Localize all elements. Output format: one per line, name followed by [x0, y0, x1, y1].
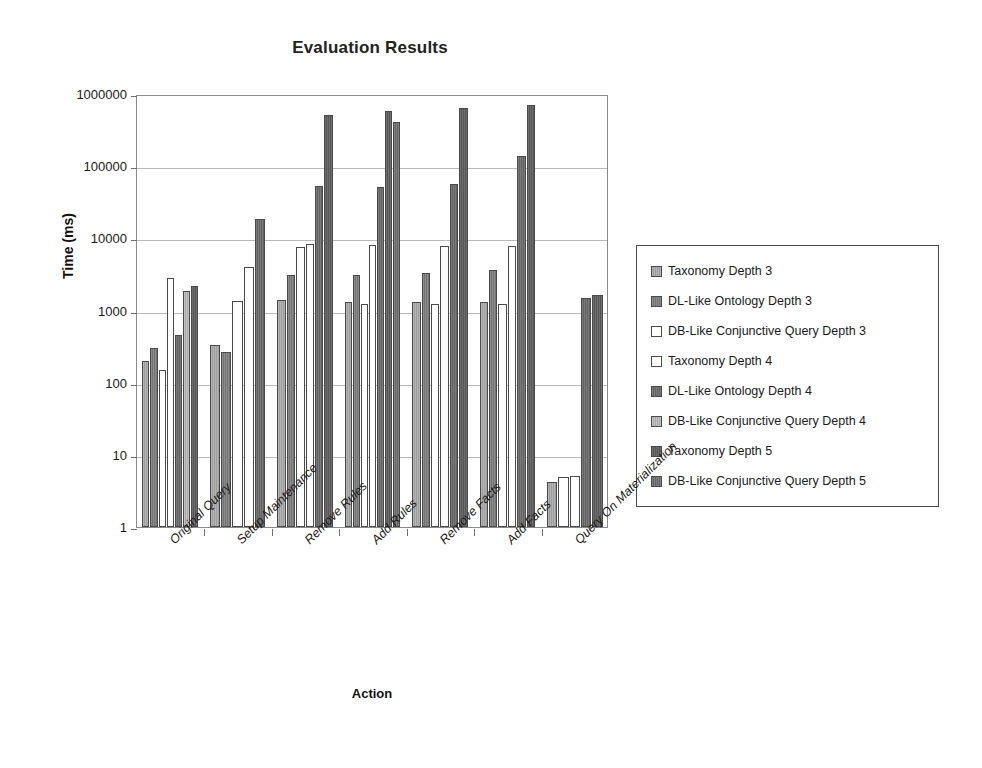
bar	[440, 246, 448, 527]
legend-swatch-icon	[651, 476, 662, 487]
legend-label: DB-Like Conjunctive Query Depth 4	[668, 415, 866, 428]
bar	[377, 187, 384, 527]
bar	[244, 267, 254, 527]
y-tick-mark	[131, 529, 137, 530]
legend-swatch-icon	[651, 386, 662, 397]
bar	[412, 302, 420, 527]
bar	[255, 219, 265, 527]
gridline	[137, 168, 607, 169]
x-tick-mark	[204, 529, 205, 536]
bar	[324, 115, 332, 528]
x-tick-mark	[407, 529, 408, 536]
bar	[592, 295, 602, 527]
legend-label: Taxonomy Depth 4	[668, 355, 772, 368]
x-tick-mark	[474, 529, 475, 536]
gridline	[137, 240, 607, 241]
y-tick-label: 10	[41, 448, 127, 463]
legend-label: DB-Like Conjunctive Query Depth 3	[668, 325, 866, 338]
legend-item[interactable]: DL-Like Ontology Depth 4	[651, 384, 812, 398]
bar	[558, 477, 568, 527]
y-tick-mark	[131, 313, 137, 314]
legend-item[interactable]: DL-Like Ontology Depth 3	[651, 294, 812, 308]
legend-item[interactable]: DB-Like Conjunctive Query Depth 4	[651, 414, 866, 428]
x-tick-mark	[272, 529, 273, 536]
y-tick-label: 1000000	[41, 87, 127, 102]
y-tick-mark	[131, 457, 137, 458]
bar	[517, 156, 525, 527]
legend-item[interactable]: DB-Like Conjunctive Query Depth 3	[651, 324, 866, 338]
legend-label: Taxonomy Depth 3	[668, 265, 772, 278]
bar	[150, 348, 157, 527]
legend-label: DL-Like Ontology Depth 4	[668, 385, 812, 398]
bar	[459, 108, 467, 527]
legend-swatch-icon	[651, 356, 662, 367]
x-axis-title: Action	[136, 686, 608, 701]
bar	[581, 298, 591, 527]
y-tick-label: 1000	[41, 304, 127, 319]
legend-item[interactable]: Taxonomy Depth 4	[651, 354, 772, 368]
y-tick-label: 100000	[41, 159, 127, 174]
bar	[191, 286, 198, 527]
bar	[508, 246, 516, 527]
bar	[422, 273, 430, 527]
chart-legend: Taxonomy Depth 3DL-Like Ontology Depth 3…	[636, 245, 939, 507]
y-tick-mark	[131, 96, 137, 97]
legend-label: Taxonomy Depth 5	[668, 445, 772, 458]
bar	[393, 122, 400, 527]
legend-swatch-icon	[651, 416, 662, 427]
legend-label: DL-Like Ontology Depth 3	[668, 295, 812, 308]
bar	[175, 335, 182, 527]
bar	[306, 244, 314, 527]
bar	[527, 105, 535, 527]
legend-swatch-icon	[651, 266, 662, 277]
legend-item[interactable]: DB-Like Conjunctive Query Depth 5	[651, 474, 866, 488]
chart-root: Evaluation Results Time (ms) 10000001000…	[0, 0, 982, 768]
legend-label: DB-Like Conjunctive Query Depth 5	[668, 475, 866, 488]
bar	[232, 301, 242, 527]
legend-swatch-icon	[651, 326, 662, 337]
y-tick-label: 1	[41, 520, 127, 535]
x-tick-mark	[339, 529, 340, 536]
bar	[167, 278, 174, 527]
bar	[570, 476, 580, 527]
chart-title: Evaluation Results	[0, 38, 740, 58]
bar	[183, 291, 190, 527]
bar	[369, 245, 376, 527]
x-tick-mark	[542, 529, 543, 536]
y-tick-mark	[131, 168, 137, 169]
plot-area: 1000000100000100001000100101	[136, 95, 608, 528]
y-tick-mark	[131, 240, 137, 241]
legend-swatch-icon	[651, 296, 662, 307]
legend-item[interactable]: Taxonomy Depth 3	[651, 264, 772, 278]
bar	[385, 111, 392, 527]
bar	[431, 304, 439, 527]
bar	[142, 361, 149, 527]
bar	[159, 370, 166, 527]
y-tick-mark	[131, 385, 137, 386]
y-tick-label: 10000	[41, 231, 127, 246]
bar	[315, 186, 323, 527]
y-tick-label: 100	[41, 376, 127, 391]
bar	[450, 184, 458, 527]
